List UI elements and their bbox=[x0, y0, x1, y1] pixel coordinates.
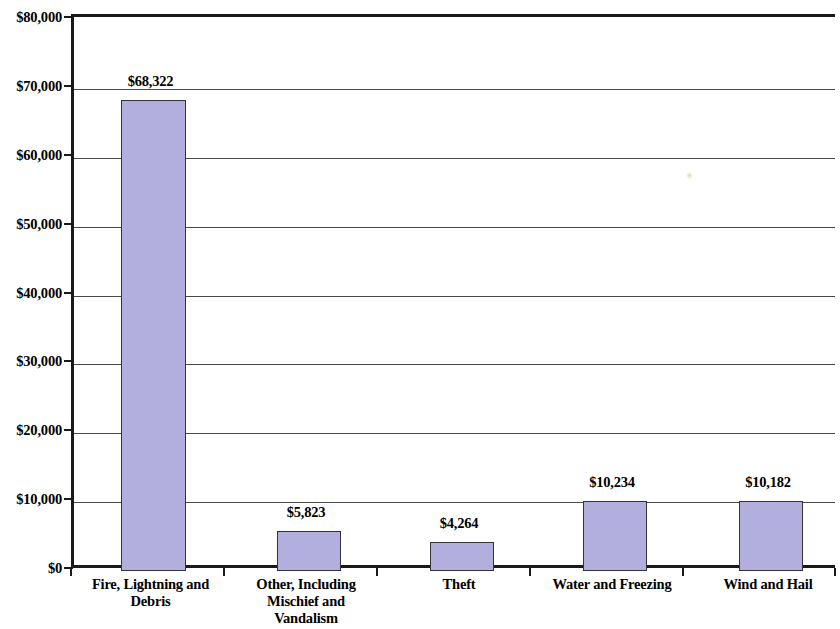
gridline bbox=[74, 158, 835, 159]
y-axis-tick-label: $20,000 bbox=[0, 423, 62, 438]
bar bbox=[739, 501, 803, 571]
gridline bbox=[74, 227, 835, 228]
x-axis-tick bbox=[529, 568, 531, 576]
gridline bbox=[74, 433, 835, 434]
gridline bbox=[74, 296, 835, 297]
bar-value-label: $10,234 bbox=[522, 475, 702, 490]
x-axis-tick bbox=[682, 568, 684, 576]
x-axis-tick bbox=[834, 568, 836, 576]
x-axis-category-label: Wind and Hail bbox=[673, 576, 840, 593]
x-axis-category-line: Vandalism bbox=[211, 610, 401, 627]
scan-artifact-speck bbox=[686, 172, 693, 179]
y-axis-tick-label: $30,000 bbox=[0, 354, 62, 369]
gridline bbox=[74, 89, 835, 90]
y-axis-tick-label: $70,000 bbox=[0, 79, 62, 94]
bar-value-label: $68,322 bbox=[61, 74, 241, 89]
bar-value-label: $10,182 bbox=[678, 475, 840, 490]
y-axis-tick-label: $60,000 bbox=[0, 148, 62, 163]
x-axis-tick bbox=[70, 568, 72, 576]
y-axis-tick-label: $0 bbox=[0, 561, 62, 576]
gridline bbox=[74, 502, 835, 503]
x-axis-category-line: Wind and Hail bbox=[673, 576, 840, 593]
gridline bbox=[74, 364, 835, 365]
bar bbox=[277, 531, 341, 571]
y-axis-tick-label: $50,000 bbox=[0, 217, 62, 232]
y-axis-tick-label: $10,000 bbox=[0, 492, 62, 507]
x-axis-category-line: Mischief and bbox=[211, 593, 401, 610]
x-axis-tick bbox=[376, 568, 378, 576]
bar bbox=[583, 501, 647, 571]
y-axis-tick-label: $40,000 bbox=[0, 286, 62, 301]
bar bbox=[430, 542, 494, 571]
y-axis-tick-label: $80,000 bbox=[0, 10, 62, 25]
bar-value-label: $4,264 bbox=[369, 516, 549, 531]
bar bbox=[121, 100, 186, 571]
x-axis-tick bbox=[223, 568, 225, 576]
